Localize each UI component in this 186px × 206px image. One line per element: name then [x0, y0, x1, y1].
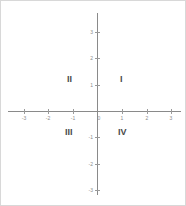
- quadrant-label-three: III: [65, 127, 73, 137]
- y-tick-label-pos1: 1: [81, 82, 93, 88]
- y-tick-pos3: [95, 32, 100, 33]
- x-tick-label-pos1: 1: [115, 115, 129, 121]
- quadrant-label-four: IV: [118, 127, 127, 137]
- x-tick-neg2: [48, 109, 49, 114]
- x-tick-label-pos2: 2: [140, 115, 154, 121]
- x-axis-line: [8, 111, 181, 112]
- quadrant-label-two: II: [67, 74, 72, 84]
- x-tick-pos2: [147, 109, 148, 114]
- coordinate-plane-figure: -3 -2 -1 0 1 2 3 3 2 1 -1 -2 -3 I II III…: [0, 0, 186, 206]
- y-tick-label-neg2: -2: [81, 161, 93, 167]
- quadrant-label-one: I: [120, 74, 123, 84]
- x-tick-label-pos3: 3: [164, 115, 178, 121]
- y-tick-label-pos2: 2: [81, 55, 93, 61]
- x-tick-pos1: [122, 109, 123, 114]
- x-tick-label-zero: 0: [92, 115, 106, 121]
- y-tick-neg3: [95, 190, 100, 191]
- x-tick-label-neg1: -1: [66, 115, 80, 121]
- x-tick-neg3: [24, 109, 25, 114]
- y-axis-line: [97, 13, 98, 195]
- x-tick-pos3: [171, 109, 172, 114]
- y-tick-pos1: [95, 85, 100, 86]
- x-tick-neg1: [73, 109, 74, 114]
- y-tick-neg2: [95, 164, 100, 165]
- y-tick-label-neg3: -3: [81, 187, 93, 193]
- y-tick-label-pos3: 3: [81, 29, 93, 35]
- x-tick-label-neg3: -3: [17, 115, 31, 121]
- y-tick-pos2: [95, 58, 100, 59]
- x-tick-label-neg2: -2: [41, 115, 55, 121]
- y-tick-neg1: [95, 137, 100, 138]
- y-tick-label-neg1: -1: [81, 134, 93, 140]
